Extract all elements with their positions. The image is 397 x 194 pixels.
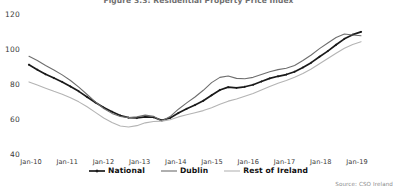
source-note: Source: CSO Ireland [335, 181, 393, 187]
x-tick-jan-19: Jan-19 [340, 158, 374, 166]
legend-label-rest-of-ireland: Rest of Ireland [243, 166, 308, 175]
x-tick-jan-12: Jan-12 [86, 158, 120, 166]
legend-swatch-rest-of-ireland [224, 167, 240, 175]
x-tick-jan-16: Jan-16 [231, 158, 265, 166]
x-tick-jan-10: Jan-10 [14, 158, 48, 166]
y-tick-80: 80 [0, 80, 20, 89]
residential-property-price-index-chart: Figure 3.3: Residential Property Price I… [0, 0, 397, 194]
x-tick-jan-13: Jan-13 [123, 158, 157, 166]
plot-area [25, 14, 373, 154]
x-tick-jan-17: Jan-17 [268, 158, 302, 166]
x-tick-jan-11: Jan-11 [50, 158, 84, 166]
series-line-national [29, 32, 361, 121]
series-canvas [25, 14, 373, 154]
legend-label-national: National [108, 166, 145, 175]
y-tick-60: 60 [0, 115, 20, 124]
x-tick-jan-14: Jan-14 [159, 158, 193, 166]
chart-legend: NationalDublinRest of Ireland [0, 166, 397, 175]
y-tick-120: 120 [0, 10, 20, 19]
y-tick-100: 100 [0, 45, 20, 54]
x-tick-jan-18: Jan-18 [304, 158, 338, 166]
legend-item-national[interactable]: National [89, 166, 145, 175]
chart-title: Figure 3.3: Residential Property Price I… [0, 0, 397, 5]
legend-item-dublin[interactable]: Dublin [161, 166, 208, 175]
x-tick-jan-15: Jan-15 [195, 158, 229, 166]
legend-swatch-national [89, 167, 105, 175]
legend-label-dublin: Dublin [180, 166, 208, 175]
legend-item-rest-of-ireland[interactable]: Rest of Ireland [224, 166, 308, 175]
legend-swatch-dublin [161, 167, 177, 175]
series-line-dublin [29, 34, 361, 121]
